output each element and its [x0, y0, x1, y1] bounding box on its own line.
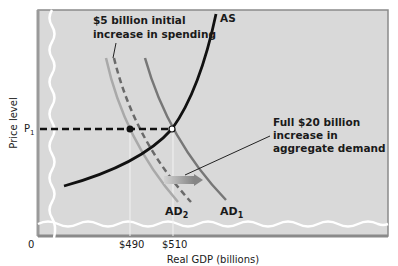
- x-tick-510: $510: [162, 239, 187, 250]
- y-tick-p1: P1: [24, 123, 35, 137]
- x-axis-title: Real GDP (billions): [167, 254, 259, 265]
- ad2-p1-point: [127, 126, 134, 133]
- annotation-right-line1: Full $20 billion: [273, 116, 360, 128]
- x-tick-0: 0: [28, 239, 34, 250]
- annotation-top-line2: increase in spending: [93, 28, 216, 40]
- annotation-right-line2: increase in: [273, 129, 338, 141]
- x-tick-490: $490: [119, 239, 144, 250]
- as-label: AS: [220, 12, 236, 24]
- annotation-right-line3: aggregate demand: [273, 142, 385, 154]
- equilibrium-point: [169, 126, 175, 132]
- annotation-top-line1: $5 billion initial: [93, 14, 186, 26]
- chart-figure: $5 billion initial increase in spending …: [0, 0, 398, 266]
- y-axis-title: Price level: [8, 97, 19, 148]
